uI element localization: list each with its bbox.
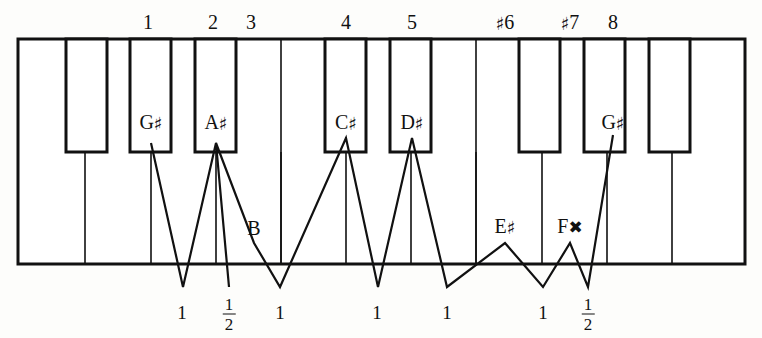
note-name-label: A♯	[204, 112, 227, 132]
scale-degree-text: 6	[504, 11, 514, 33]
step-size-label: 1	[275, 303, 285, 322]
black-key-3[interactable]	[195, 39, 236, 152]
sharp-icon: ♯	[415, 113, 424, 134]
scale-degree-label: 8	[608, 12, 618, 32]
whole-step-value: 1	[275, 302, 285, 323]
black-key-1[interactable]	[66, 39, 107, 152]
note-name-label: G♯	[139, 112, 162, 132]
scale-degree-label: ♯6	[496, 12, 515, 32]
black-key-7[interactable]	[584, 39, 625, 152]
scale-degree-label: 1	[143, 12, 153, 32]
scale-degree-text: 5	[407, 11, 417, 33]
step-size-label: 1	[442, 303, 452, 322]
scale-degree-text: 8	[608, 11, 618, 33]
scale-degree-label: 5	[407, 12, 417, 32]
scale-degree-text: 4	[341, 11, 351, 33]
step-size-label: 12	[223, 294, 236, 331]
note-name-label: G♯	[601, 112, 624, 132]
double-sharp-icon: ✖	[568, 217, 582, 237]
note-letter: D	[400, 111, 414, 133]
note-name-label: B	[247, 218, 260, 238]
half-step-fraction: 12	[223, 296, 236, 333]
step-size-label: 1	[372, 303, 382, 322]
whole-step-value: 1	[538, 302, 548, 323]
black-key-8[interactable]	[649, 39, 690, 152]
scale-degree-text: 7	[569, 11, 579, 33]
note-letter: F	[557, 215, 568, 237]
fraction-denominator: 2	[582, 315, 595, 333]
sharp-icon: ♯	[507, 217, 516, 238]
diagram-canvas: 12345♯6♯78 G♯A♯C♯D♯BE♯F✖G♯ 112111112	[0, 0, 762, 338]
scale-degree-text: 3	[246, 11, 256, 33]
note-letter: G	[601, 111, 615, 133]
note-name-label: F✖	[557, 216, 582, 236]
scale-degree-label: ♯7	[561, 12, 580, 32]
step-size-label: 12	[582, 294, 595, 331]
black-key-6[interactable]	[519, 39, 560, 152]
sharp-icon: ♯	[616, 113, 625, 134]
fraction-numerator: 1	[582, 296, 595, 315]
keyboard-group	[18, 39, 745, 264]
whole-step-value: 1	[177, 302, 187, 323]
black-key-5[interactable]	[390, 39, 431, 152]
sharp-icon: ♯	[561, 13, 570, 34]
sharp-icon: ♯	[348, 113, 357, 134]
note-name-label: C♯	[335, 112, 357, 132]
scale-degree-label: 2	[208, 12, 218, 32]
fraction-denominator: 2	[223, 315, 236, 333]
whole-step-value: 1	[372, 302, 382, 323]
keyboard-outline	[18, 39, 745, 264]
note-letter: C	[335, 111, 348, 133]
note-name-label: D♯	[400, 112, 423, 132]
scale-degree-text: 2	[208, 11, 218, 33]
step-size-label: 1	[177, 303, 187, 322]
keyboard-svg	[0, 0, 762, 338]
scale-degree-text: 1	[143, 11, 153, 33]
black-key-4[interactable]	[325, 39, 366, 152]
black-key-2[interactable]	[130, 39, 171, 152]
sharp-icon: ♯	[496, 13, 505, 34]
scale-degree-label: 3	[246, 12, 256, 32]
note-name-label: E♯	[495, 216, 516, 236]
sharp-icon: ♯	[219, 113, 228, 134]
note-letter: E	[495, 215, 507, 237]
fraction-numerator: 1	[223, 296, 236, 315]
note-letter: A	[204, 111, 218, 133]
whole-step-value: 1	[442, 302, 452, 323]
step-size-label: 1	[538, 303, 548, 322]
note-letter: G	[139, 111, 153, 133]
half-step-fraction: 12	[582, 296, 595, 333]
sharp-icon: ♯	[154, 113, 163, 134]
note-letter: B	[247, 217, 260, 239]
scale-degree-label: 4	[341, 12, 351, 32]
